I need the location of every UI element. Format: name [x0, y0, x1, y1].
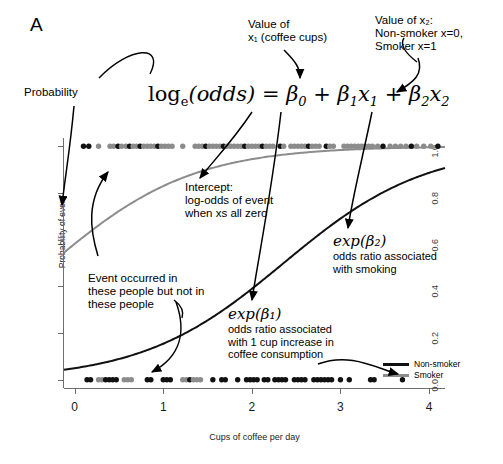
rug-point-event	[421, 143, 426, 148]
rug-point-event	[387, 143, 392, 148]
legend: Non-smokerSmoker	[383, 359, 460, 381]
arrow-probability-to-equation	[99, 53, 154, 78]
y-tick	[58, 146, 63, 147]
panel-label: A	[30, 14, 43, 36]
rug-point-no-event	[329, 377, 334, 382]
rug-point-event	[270, 143, 275, 148]
rug-point-event	[403, 143, 408, 148]
legend-line-swatch	[383, 374, 409, 377]
rug-point-no-event	[235, 377, 240, 382]
data-point-rugs	[64, 138, 445, 388]
annotation-value-x1: Value of x₁ (coffee cups)	[248, 18, 327, 44]
x-tick-label: 2	[248, 400, 255, 414]
rug-point-event	[370, 143, 375, 148]
logistic-equation: loge(odds) = β0 + β1x1 + β2x2	[148, 82, 450, 109]
rug-point-no-event	[283, 377, 288, 382]
x-tick	[252, 389, 253, 394]
y-tick	[58, 286, 63, 287]
rug-point-no-event	[302, 377, 307, 382]
rug-point-no-event	[148, 377, 153, 382]
x-tick	[340, 389, 341, 394]
rug-point-event	[86, 143, 91, 148]
y-tick	[58, 333, 63, 334]
x-axis-title: Cups of coffee per day	[64, 432, 445, 442]
rug-point-event	[316, 143, 321, 148]
rug-point-no-event	[88, 377, 93, 382]
rug-point-no-event	[223, 377, 228, 382]
rug-point-event	[398, 143, 403, 148]
rug-point-event	[169, 143, 174, 148]
figure-panel-a: A loge(odds) = β0 + β1x1 + β2x2 Probabil…	[0, 0, 503, 464]
y-tick	[58, 380, 63, 381]
rug-point-event	[428, 143, 433, 148]
rug-point-no-event	[371, 377, 376, 382]
x-tick-label: 3	[337, 400, 344, 414]
legend-item: Non-smoker	[383, 359, 460, 370]
rug-point-event	[380, 143, 385, 148]
legend-label: Non-smoker	[414, 359, 460, 370]
rug-point-no-event	[254, 377, 259, 382]
rug-point-event	[393, 143, 398, 148]
y-tick	[58, 193, 63, 194]
rug-point-no-event	[114, 377, 119, 382]
rug-point-event	[331, 143, 336, 148]
rug-point-no-event	[265, 377, 270, 382]
rug-point-event	[375, 143, 380, 148]
legend-line-swatch	[383, 363, 409, 366]
arrow-value-x1	[284, 50, 300, 78]
x-tick	[163, 389, 164, 394]
x-tick-label: 4	[426, 400, 433, 414]
rug-point-no-event	[347, 377, 352, 382]
annotation-value-x2: Value of x₂: Non-smoker x=0, Smoker x=1	[375, 14, 463, 54]
rug-point-no-event	[168, 377, 173, 382]
rug-point-event	[409, 143, 414, 148]
y-tick	[58, 240, 63, 241]
annotation-probability: Probability	[24, 86, 78, 99]
rug-point-event	[281, 143, 286, 148]
plot-area: 0.00.20.40.60.81.0 01234	[64, 138, 445, 388]
rug-point-event	[81, 143, 86, 148]
rug-point-no-event	[210, 377, 215, 382]
rug-point-event	[414, 143, 419, 148]
x-tick	[429, 389, 430, 394]
rug-point-event	[96, 143, 101, 148]
x-tick-label: 0	[71, 400, 78, 414]
rug-point-no-event	[198, 377, 203, 382]
x-tick	[75, 389, 76, 394]
legend-item: Smoker	[383, 370, 460, 381]
rug-point-no-event	[338, 377, 343, 382]
rug-point-no-event	[129, 377, 134, 382]
x-axis-line	[64, 388, 445, 389]
rug-point-event	[180, 143, 185, 148]
rug-point-event	[435, 143, 440, 148]
x-tick-label: 1	[160, 400, 167, 414]
legend-label: Smoker	[414, 370, 443, 381]
